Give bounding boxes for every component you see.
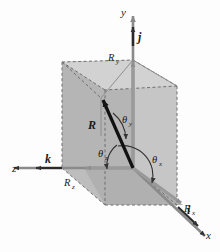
axis-label-x: x	[205, 229, 211, 241]
component-label-Rz-sub: z	[71, 183, 75, 191]
axis-label-y: y	[120, 6, 126, 18]
vector-diagram-figure: y x z j i k R y R x R z R	[0, 0, 220, 252]
resultant-label: R	[87, 118, 96, 132]
angle-label-theta-x-base: θ	[152, 154, 157, 165]
angle-label-theta-y-base: θ	[122, 114, 127, 125]
component-label-Rx-sub: x	[191, 209, 196, 217]
unit-vector-label-j: j	[136, 30, 142, 44]
angle-label-theta-z-sub: z	[104, 154, 108, 162]
axis-label-z: z	[11, 162, 17, 174]
component-label-Ry-base: R	[107, 52, 115, 63]
angle-label-theta-z-base: θ	[98, 148, 103, 159]
component-label-Rz-base: R	[63, 177, 71, 188]
unit-vector-label-k: k	[45, 152, 51, 166]
vector-diagram-svg: y x z j i k R y R x R z R	[0, 0, 220, 252]
component-label-Rz: R z	[63, 177, 75, 191]
component-label-Rx-base: R	[183, 203, 191, 214]
